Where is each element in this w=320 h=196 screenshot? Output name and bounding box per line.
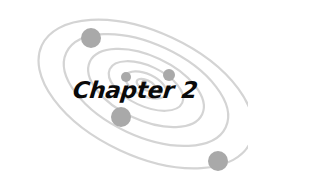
planet-large-top-left (81, 28, 101, 48)
planet-large-center (111, 107, 131, 127)
planet-large-bottom-right (208, 151, 228, 171)
chapter-title: Chapter 2 (72, 79, 199, 102)
